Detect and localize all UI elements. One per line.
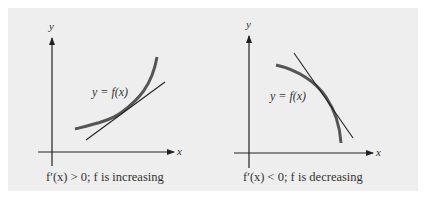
x-axis-label: x xyxy=(176,145,182,157)
caption: f′(x) > 0; f is increasing xyxy=(46,170,164,184)
curve-label: y = f(x) xyxy=(269,89,306,103)
caption: f′(x) < 0; f is decreasing xyxy=(243,170,364,184)
increasing-function-figure: y x y = f(x) f′(x) > 0; f is increasing xyxy=(38,20,182,184)
y-axis-label: y xyxy=(245,18,251,30)
x-axis-label: x xyxy=(375,146,381,158)
y-axis-label: y xyxy=(48,20,54,32)
function-curve xyxy=(276,65,341,143)
decreasing-function-figure: y x y = f(x) f′(x) < 0; f is decreasing xyxy=(234,18,381,184)
derivative-sign-diagram: y x y = f(x) f′(x) > 0; f is increasing … xyxy=(0,0,430,207)
curve-label: y = f(x) xyxy=(91,85,128,99)
